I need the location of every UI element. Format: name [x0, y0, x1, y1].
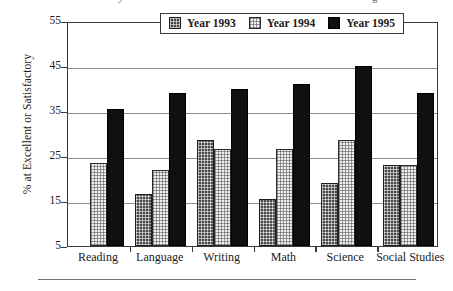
legend-label: Year 1993: [187, 17, 236, 29]
x-label-social-studies: Social Studies: [376, 250, 438, 265]
bar-reading-year-1995: [107, 109, 124, 246]
bar-social-studies-year-1993: [383, 165, 400, 246]
bar-chart-figure: y g % at Excellent or Satisfactory 55453…: [0, 0, 453, 291]
bar-writing-year-1995: [231, 89, 248, 247]
bar-science-year-1995: [355, 66, 372, 246]
y-tick-label: 35: [31, 104, 61, 116]
bar-language-year-1995: [169, 93, 186, 246]
x-label-reading: Reading: [67, 250, 129, 265]
bar-group: [68, 23, 130, 246]
bar-reading-year-1994: [90, 163, 107, 246]
cut-off-text-right: g: [372, 0, 378, 3]
y-tick-label: 5: [31, 239, 61, 251]
y-tick-label: 15: [31, 194, 61, 206]
bar-social-studies-year-1995: [417, 93, 434, 246]
x-label-math: Math: [253, 250, 315, 265]
legend-label: Year 1995: [346, 17, 395, 29]
bar-science-year-1993: [321, 183, 338, 246]
bottom-divider: [38, 279, 416, 280]
bar-language-year-1994: [152, 170, 169, 247]
legend-label: Year 1994: [267, 17, 316, 29]
y-tick-mark: [61, 247, 67, 248]
legend-item-year-1995[interactable]: Year 1995: [328, 17, 395, 29]
y-tick-label: 55: [31, 14, 61, 26]
bar-social-studies-year-1994: [400, 165, 417, 246]
x-label-language: Language: [129, 250, 191, 265]
bar-language-year-1993: [135, 194, 152, 246]
legend-item-year-1994[interactable]: Year 1994: [249, 17, 316, 29]
plot-area: [67, 22, 438, 247]
bar-group: [377, 23, 439, 246]
plot-inner: [68, 23, 437, 246]
bar-writing-year-1994: [214, 149, 231, 246]
bar-math-year-1995: [293, 84, 310, 246]
bar-group: [130, 23, 192, 246]
bar-science-year-1994: [338, 140, 355, 246]
legend-swatch-icon: [249, 17, 261, 29]
bar-math-year-1993: [259, 199, 276, 246]
x-label-science: Science: [314, 250, 376, 265]
legend-item-year-1993[interactable]: Year 1993: [169, 17, 236, 29]
legend-swatch-icon: [328, 17, 340, 29]
x-label-writing: Writing: [191, 250, 253, 265]
bar-group: [254, 23, 316, 246]
chart-legend: Year 1993Year 1994Year 1995: [160, 13, 404, 34]
bar-writing-year-1993: [197, 140, 214, 246]
legend-swatch-icon: [169, 17, 181, 29]
bar-group: [315, 23, 377, 246]
y-tick-label: 45: [31, 59, 61, 71]
y-tick-label: 25: [31, 149, 61, 161]
cut-off-text-top: y g: [0, 0, 453, 11]
bar-math-year-1994: [276, 149, 293, 246]
bar-group: [192, 23, 254, 246]
cut-off-text-left: y: [118, 0, 124, 3]
